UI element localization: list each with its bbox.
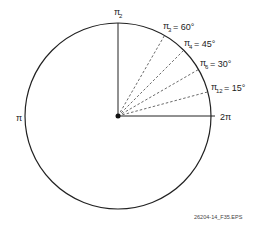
label-45-den: 4 [189,44,193,50]
label-60-den: 3 [168,27,172,33]
label-15-den: 12 [216,88,223,94]
center-point [116,114,121,119]
ray-15 [118,92,208,116]
ray-45 [118,50,184,116]
ray-30 [118,70,199,117]
unit-circle-diagram: π 2 π 2π π 3 = 60° π 4 = 45° π 6 = 30° π… [0,0,258,226]
label-30-deg: = 30° [210,59,232,69]
label-60-deg: = 60° [173,22,195,32]
label-2pi: 2π [220,112,231,122]
figure-caption: 26204-14_F35.EPS [194,214,243,220]
label-30-den: 6 [205,64,209,70]
ray-60 [118,36,165,117]
label-15-deg: = 15° [224,83,246,93]
label-pi-over-2-den: 2 [119,13,123,19]
label-45-deg: = 45° [194,39,216,49]
label-pi: π [16,113,22,123]
